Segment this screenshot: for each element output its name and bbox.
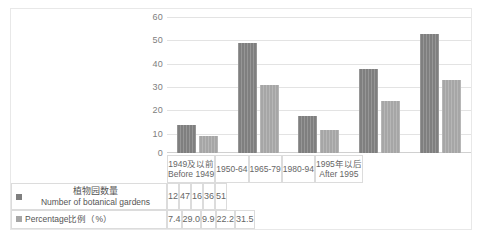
category-header-cell: 1949及以前 Before 1949 [167, 155, 215, 183]
bar-series1[interactable] [177, 125, 196, 153]
y-tick-label: 20 [153, 105, 163, 115]
y-tick-label: 10 [153, 129, 163, 139]
bar-series2[interactable] [381, 101, 400, 153]
table-row-categories: 1949及以前 Before 1949 1950-64 1965-79 1980… [11, 155, 473, 183]
bar-series2[interactable] [442, 80, 461, 154]
bar-series1[interactable] [420, 34, 439, 153]
table-row-percentage: Percentage比例（%） 7.4 29.0 9.9 22.2 31.5 [11, 210, 473, 229]
legend-label-percentage: Percentage比例（%） [25, 214, 112, 225]
table-cell: 51 [215, 183, 227, 209]
category-header-cell: 1965-79 [249, 155, 282, 183]
bar-group [289, 9, 350, 153]
table-row-counts: 植物园数量 Number of botanical gardens 12 47 … [11, 183, 473, 209]
category-header-cell: 1950-64 [215, 155, 248, 183]
table-cell: 7.4 [167, 210, 182, 229]
plot-area [167, 9, 471, 157]
table-cell: 9.9 [201, 210, 216, 229]
table-cell: 16 [191, 183, 203, 209]
legend-swatch-percentage-icon [16, 216, 22, 222]
legend-entry-counts[interactable]: 植物园数量 Number of botanical gardens [11, 183, 167, 209]
category-label-cn: 1980-94 [283, 164, 314, 175]
bar-series2[interactable] [199, 136, 218, 153]
category-label-en: Before 1949 [168, 169, 214, 180]
data-table: 1949及以前 Before 1949 1950-64 1965-79 1980… [11, 155, 473, 229]
category-label-cn: 1949及以前 [168, 159, 214, 170]
table-cell: 36 [203, 183, 215, 209]
bar-series2[interactable] [260, 85, 279, 153]
table-cell: 22.2 [216, 210, 236, 229]
y-tick-label: 60 [153, 12, 163, 22]
y-tick-label: 40 [153, 59, 163, 69]
bar-groups [167, 9, 471, 153]
legend-label-counts-en: Number of botanical gardens [41, 197, 150, 208]
y-tick-label: 50 [153, 35, 163, 45]
category-header-cell: 1980-94 [282, 155, 315, 183]
bar-group [228, 9, 289, 153]
table-cell: 31.5 [235, 210, 255, 229]
legend-entry-percentage[interactable]: Percentage比例（%） [11, 210, 167, 229]
category-label-cn: 1965-79 [250, 164, 281, 175]
category-label-en: After 1995 [319, 169, 358, 180]
legend-swatch-counts-icon [16, 194, 22, 200]
plot-region: 60 50 40 30 20 10 0 [11, 9, 473, 157]
bar-series1[interactable] [359, 69, 378, 153]
bar-group [410, 9, 471, 153]
bar-group [349, 9, 410, 153]
chart-container: 60 50 40 30 20 10 0 1949及以前 Before 1949 [10, 8, 472, 230]
table-cell: 29.0 [182, 210, 202, 229]
bar-series2[interactable] [320, 130, 339, 153]
legend-label-counts: 植物园数量 Number of botanical gardens [25, 186, 166, 208]
y-tick-label: 30 [153, 82, 163, 92]
category-row-spacer [11, 155, 167, 183]
table-cell: 47 [179, 183, 191, 209]
bar-series1[interactable] [298, 116, 317, 153]
table-cell: 12 [167, 183, 179, 209]
category-header-cell: 1995年以后 After 1995 [315, 155, 363, 183]
bar-group [167, 9, 228, 153]
legend-label-counts-cn: 植物园数量 [73, 186, 118, 197]
bar-series1[interactable] [238, 43, 257, 153]
category-label-cn: 1995年以后 [316, 159, 362, 170]
category-label-cn: 1950-64 [216, 164, 247, 175]
y-axis: 60 50 40 30 20 10 0 [141, 9, 163, 157]
